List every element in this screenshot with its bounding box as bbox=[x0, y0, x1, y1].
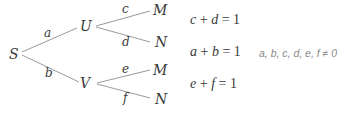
node-vm: M bbox=[152, 62, 168, 78]
nonzero-condition: a, b, c, d, e, f ≠ 0 bbox=[259, 47, 337, 59]
var: c bbox=[190, 12, 196, 27]
value: 1 bbox=[234, 44, 241, 59]
edge-label-b: b bbox=[45, 66, 53, 80]
node-u: U bbox=[80, 18, 93, 34]
var: e bbox=[190, 76, 196, 91]
edge-label-c: c bbox=[122, 2, 129, 16]
operator: = bbox=[219, 76, 227, 91]
edge-label-d: d bbox=[122, 35, 130, 49]
value: 1 bbox=[233, 12, 240, 27]
operator: = bbox=[222, 44, 230, 59]
node-vn: N bbox=[154, 91, 168, 107]
edge-label-a: a bbox=[44, 26, 51, 40]
equation-ab: a + b = 1 bbox=[190, 44, 241, 60]
node-v: V bbox=[80, 75, 92, 91]
var: d bbox=[211, 12, 218, 27]
equation-cd: c + d = 1 bbox=[190, 12, 240, 28]
equation-ef: e + f = 1 bbox=[190, 76, 237, 92]
node-um: M bbox=[152, 2, 168, 18]
node-un: N bbox=[154, 34, 168, 50]
operator: = bbox=[222, 12, 230, 27]
edge-label-f: f bbox=[122, 91, 130, 105]
operator: + bbox=[201, 44, 209, 59]
var: f bbox=[211, 76, 215, 91]
operator: + bbox=[200, 12, 208, 27]
value: 1 bbox=[230, 76, 237, 91]
var: a bbox=[190, 44, 197, 59]
node-s: S bbox=[9, 46, 19, 62]
edge-label-e: e bbox=[122, 62, 129, 76]
var: b bbox=[212, 44, 219, 59]
operator: + bbox=[200, 76, 208, 91]
